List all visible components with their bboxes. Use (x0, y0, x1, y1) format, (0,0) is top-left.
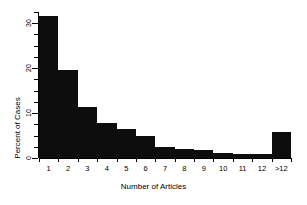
y-tick-label: 10 (22, 109, 36, 117)
x-tick (291, 158, 292, 162)
x-tick (78, 158, 79, 162)
x-tick (194, 158, 195, 162)
x-tick-label: 3 (85, 164, 89, 173)
x-tick-label: 6 (144, 164, 148, 173)
y-minor-tick (34, 57, 38, 58)
x-tick (252, 158, 253, 162)
x-tick-label: 11 (239, 164, 247, 173)
x-tick-label: 10 (219, 164, 227, 173)
y-minor-tick (34, 124, 38, 125)
x-tick-label: 1 (47, 164, 51, 173)
bar (233, 154, 252, 158)
y-minor-tick (34, 12, 38, 13)
x-tick (213, 158, 214, 162)
x-tick-label: 7 (163, 164, 167, 173)
bar (213, 153, 232, 158)
y-axis-title: Percent of Cases (13, 88, 23, 168)
x-tick (136, 158, 137, 162)
y-minor-tick (34, 79, 38, 80)
y-tick-label: 0 (22, 154, 36, 162)
bar (39, 16, 58, 158)
bar (97, 123, 116, 158)
y-minor-tick (34, 91, 38, 92)
bar (252, 154, 271, 158)
x-tick-label: 12 (258, 164, 266, 173)
bar (175, 149, 194, 158)
x-tick (97, 158, 98, 162)
bar (136, 136, 155, 158)
x-tick-label: 5 (124, 164, 128, 173)
y-minor-tick (34, 102, 38, 103)
x-tick-label: 9 (202, 164, 206, 173)
bar (117, 129, 136, 158)
x-axis-title: Number of Articles (0, 182, 307, 192)
bar (78, 107, 97, 158)
y-tick-label: 20 (22, 64, 36, 72)
x-tick (39, 158, 40, 162)
x-tick (175, 158, 176, 162)
y-minor-tick (34, 136, 38, 137)
bar (58, 70, 77, 158)
x-tick (58, 158, 59, 162)
x-tick (233, 158, 234, 162)
bar (194, 150, 213, 158)
x-tick (155, 158, 156, 162)
y-tick-label: 30 (22, 19, 36, 27)
x-tick (117, 158, 118, 162)
x-tick (272, 158, 273, 162)
histogram-figure: 0102030 123456789101112>12 Percent of Ca… (0, 0, 307, 205)
x-tick-label: 2 (66, 164, 70, 173)
y-minor-tick (34, 147, 38, 148)
y-minor-tick (34, 34, 38, 35)
bar (155, 147, 174, 158)
y-minor-tick (34, 46, 38, 47)
x-tick-label: >12 (275, 164, 288, 173)
x-axis-line (39, 158, 291, 159)
x-tick-label: 4 (105, 164, 109, 173)
bar (272, 132, 291, 158)
y-axis-title-host: Percent of Cases (4, 45, 16, 115)
x-tick-label: 8 (182, 164, 186, 173)
